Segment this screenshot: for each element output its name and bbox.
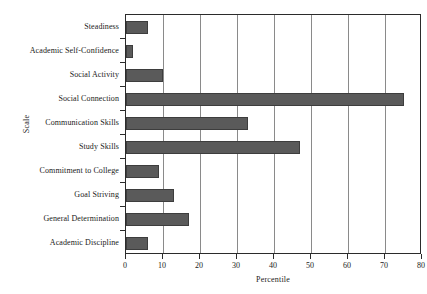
y-axis-tick-mark bbox=[120, 38, 125, 39]
x-axis-tick-mark bbox=[421, 254, 422, 259]
y-axis-tick-label: Commitment to College bbox=[14, 166, 119, 175]
gridline bbox=[311, 15, 312, 253]
y-axis-tick-label: General Determination bbox=[14, 214, 119, 223]
y-axis-tick-mark bbox=[120, 158, 125, 159]
x-axis-tick-label: 40 bbox=[258, 261, 288, 270]
gridline bbox=[385, 15, 386, 253]
x-axis-tick-label: 10 bbox=[147, 261, 177, 270]
bar bbox=[126, 93, 404, 106]
x-axis-title: Percentile bbox=[125, 275, 421, 284]
x-axis-tick-mark bbox=[236, 254, 237, 259]
bar bbox=[126, 141, 300, 154]
y-axis-tick-mark bbox=[120, 110, 125, 111]
x-axis-tick-mark bbox=[125, 254, 126, 259]
x-axis-tick-label: 50 bbox=[295, 261, 325, 270]
y-axis-tick-label: Steadiness bbox=[14, 22, 119, 31]
x-axis-tick-mark bbox=[384, 254, 385, 259]
bar bbox=[126, 237, 148, 250]
x-axis-tick-label: 70 bbox=[369, 261, 399, 270]
bar-chart: Scale SteadinessAcademic Self-Confidence… bbox=[0, 0, 427, 294]
x-axis-tick-label: 0 bbox=[110, 261, 140, 270]
y-axis-tick-mark bbox=[120, 182, 125, 183]
y-axis-tick-label: Academic Discipline bbox=[14, 238, 119, 247]
x-axis-tick-label: 20 bbox=[184, 261, 214, 270]
y-axis-tick-mark bbox=[120, 134, 125, 135]
y-axis-tick-mark bbox=[120, 206, 125, 207]
x-axis-tick-mark bbox=[347, 254, 348, 259]
gridline bbox=[200, 15, 201, 253]
x-axis-tick-mark bbox=[273, 254, 274, 259]
bar bbox=[126, 213, 189, 226]
y-axis-tick-label: Social Connection bbox=[14, 94, 119, 103]
y-axis-tick-label: Communication Skills bbox=[14, 118, 119, 127]
bar bbox=[126, 117, 248, 130]
gridline bbox=[348, 15, 349, 253]
bar bbox=[126, 165, 159, 178]
x-axis-tick-label: 60 bbox=[332, 261, 362, 270]
y-axis-tick-mark bbox=[120, 230, 125, 231]
bar bbox=[126, 69, 163, 82]
y-axis-tick-mark bbox=[120, 86, 125, 87]
y-axis-tick-labels: SteadinessAcademic Self-ConfidenceSocial… bbox=[14, 14, 119, 254]
gridline bbox=[274, 15, 275, 253]
y-axis-tick-label: Social Activity bbox=[14, 70, 119, 79]
y-axis-tick-mark bbox=[120, 62, 125, 63]
gridline bbox=[237, 15, 238, 253]
x-axis-tick-label: 80 bbox=[406, 261, 427, 270]
plot-area bbox=[125, 14, 421, 254]
y-axis-tick-label: Study Skills bbox=[14, 142, 119, 151]
y-axis-tick-label: Goal Striving bbox=[14, 190, 119, 199]
bar bbox=[126, 45, 133, 58]
bar bbox=[126, 189, 174, 202]
x-axis-tick-mark bbox=[162, 254, 163, 259]
x-axis-tick-mark bbox=[199, 254, 200, 259]
x-axis-tick-mark bbox=[310, 254, 311, 259]
y-axis-tick-label: Academic Self-Confidence bbox=[14, 46, 119, 55]
x-axis-tick-label: 30 bbox=[221, 261, 251, 270]
bar bbox=[126, 21, 148, 34]
